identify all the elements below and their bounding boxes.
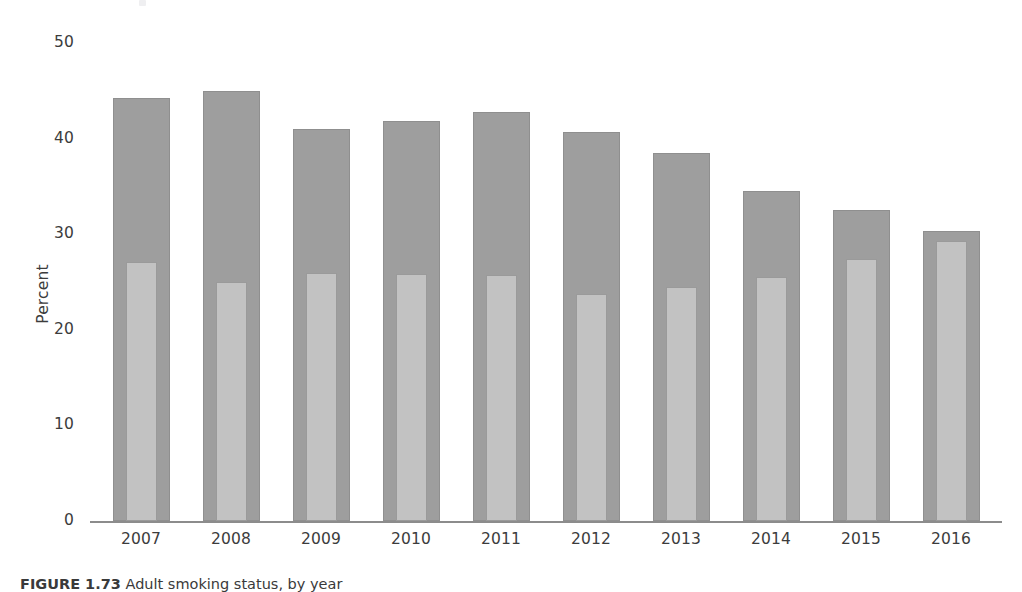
x-tick-label: 2007 (121, 530, 161, 548)
figure-caption-label: FIGURE 1.73 (20, 576, 121, 592)
x-tick-label: 2009 (301, 530, 341, 548)
x-tick-label: 2016 (931, 530, 971, 548)
bar-subgroup[interactable] (126, 262, 157, 521)
bar-subgroup[interactable] (666, 287, 697, 521)
figure-caption-text: Adult smoking status, by year (125, 576, 342, 592)
bar-group[interactable] (653, 43, 710, 521)
x-tick-label: 2014 (751, 530, 791, 548)
bar-subgroup[interactable] (396, 274, 427, 521)
x-tick-label: 2013 (661, 530, 701, 548)
bar-group[interactable] (113, 43, 170, 521)
bar-subgroup[interactable] (216, 282, 247, 521)
bar-group[interactable] (833, 43, 890, 521)
bar-group[interactable] (203, 43, 260, 521)
bar-subgroup[interactable] (936, 241, 967, 521)
bar-subgroup[interactable] (306, 273, 337, 521)
x-tick-label: 2010 (391, 530, 431, 548)
bar-subgroup[interactable] (486, 275, 517, 521)
x-tick-label: 2012 (571, 530, 611, 548)
bar-group[interactable] (923, 43, 980, 521)
x-tick-label: 2011 (481, 530, 521, 548)
x-tick-label: 2015 (841, 530, 881, 548)
bar-subgroup[interactable] (756, 277, 787, 521)
x-tick-label: 2008 (211, 530, 251, 548)
bar-group[interactable] (563, 43, 620, 521)
bar-subgroup[interactable] (846, 259, 877, 521)
bar-group[interactable] (743, 43, 800, 521)
bar-group[interactable] (473, 43, 530, 521)
bar-group[interactable] (293, 43, 350, 521)
bar-group[interactable] (383, 43, 440, 521)
bar-subgroup[interactable] (576, 294, 607, 521)
figure-caption: FIGURE 1.73 Adult smoking status, by yea… (20, 576, 1000, 592)
